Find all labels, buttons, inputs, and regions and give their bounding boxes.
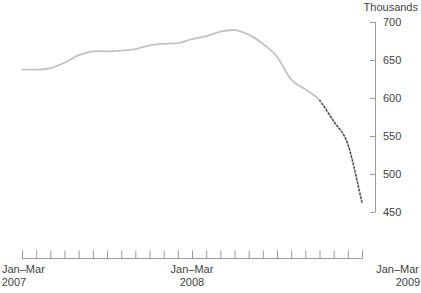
data-series-group [22,30,362,203]
line-chart: Thousands 700 650 600 550 500 450 [0,0,421,293]
y-axis-tick-label: 650 [383,54,401,66]
x-axis-tick-group [23,251,363,259]
chart-container: Thousands 700 650 600 550 500 450 [0,0,421,293]
x-axis-major-label-year: 2007 [2,276,26,288]
x-axis-major-label: Jan–Mar [376,263,419,275]
y-axis-tick-label: 500 [383,168,401,180]
x-axis-major-label: Jan–Mar [171,263,214,275]
x-axis-major-label: Jan–Mar [2,263,45,275]
y-axis-tick-label: 450 [383,206,401,218]
y-axis-tick-label: 700 [383,16,401,28]
y-axis: 700 650 600 550 500 450 [370,16,401,218]
x-axis [22,251,363,259]
y-axis-tick-label: 600 [383,92,401,104]
y-axis-unit-label: Thousands [364,1,419,13]
x-axis-major-label-year: 2008 [180,276,204,288]
series-line-projection-dashed [320,100,363,203]
x-axis-major-label-group: Jan–Mar2007Jan–Mar2008Jan–Mar2009 [2,263,420,288]
series-line-solid [22,30,362,203]
x-axis-major-label-year: 2009 [396,276,420,288]
y-axis-tick-label: 550 [383,130,401,142]
